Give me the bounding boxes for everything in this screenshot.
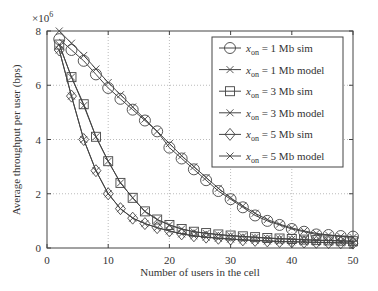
x-marker <box>166 227 173 234</box>
x-tick-label: 40 <box>286 254 298 266</box>
y-multiplier: ×106 <box>32 10 53 24</box>
y-tick-label: 2 <box>36 188 42 200</box>
x-tick-label: 0 <box>44 254 50 266</box>
x-axis-label: Number of users in the cell <box>140 266 259 278</box>
x-marker <box>141 220 148 227</box>
legend-box <box>212 37 343 167</box>
x-tick-label: 50 <box>348 254 360 266</box>
x-marker <box>68 74 75 81</box>
chart: 0102030405002468 ×106 Number of users in… <box>0 0 378 291</box>
x-marker <box>68 93 75 100</box>
x-tick-label: 20 <box>164 254 176 266</box>
x-marker <box>68 40 75 47</box>
y-tick-label: 8 <box>36 25 42 37</box>
x-marker <box>92 167 99 174</box>
x-marker <box>154 224 161 231</box>
x-marker <box>141 208 148 215</box>
legend: xon = 1 Mb simxon = 1 Mb modelxon = 3 Mb… <box>212 37 343 167</box>
x-marker <box>129 194 136 201</box>
x-marker <box>105 79 112 86</box>
x-marker <box>117 179 124 186</box>
x-tick-label: 10 <box>103 254 115 266</box>
x-marker <box>80 52 87 59</box>
x-marker <box>92 65 99 72</box>
y-axis-label: Average throughput per user (bps) <box>10 64 23 215</box>
y-tick-label: 4 <box>36 134 42 146</box>
x-marker <box>117 205 124 212</box>
y-tick-label: 0 <box>36 242 42 254</box>
y-tick-label: 6 <box>36 79 42 91</box>
x-tick-label: 30 <box>225 254 237 266</box>
x-marker <box>129 215 136 222</box>
x-marker <box>154 128 161 135</box>
x-marker <box>117 91 124 98</box>
x-marker <box>141 116 148 123</box>
